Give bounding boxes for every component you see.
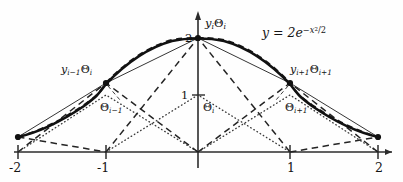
peak-term-label: yiΘi <box>205 16 226 31</box>
right-term-theta: Θ <box>310 63 319 76</box>
hat-right-label: Θi+1 <box>285 101 307 115</box>
node-dot-x--2 <box>15 134 21 140</box>
hat-mid-label: Θi <box>203 101 214 115</box>
node-dot-x-0 <box>195 35 201 41</box>
equation-label: y = 2e−x2/2 <box>262 25 326 40</box>
equation-exp-minus: − <box>303 25 310 35</box>
peak-term-theta-subscript: i <box>223 22 226 31</box>
equation-exp-denominator: /2 <box>318 25 326 35</box>
equation-exponent: −x2/2 <box>303 25 326 35</box>
y-axis-arrowhead <box>195 11 201 20</box>
hat-left-subscript: i−1 <box>109 106 122 115</box>
plot-svg <box>0 0 403 182</box>
hat-right-theta: Θ <box>285 101 294 114</box>
equation-lhs: y = 2e <box>262 25 303 40</box>
scaled-basis-x-1 <box>198 83 378 152</box>
left-term-label: yi−1Θi <box>61 63 92 77</box>
right-term-label: yi+1Θi+1 <box>290 63 332 77</box>
hat-left-theta: Θ <box>100 101 109 114</box>
node-dot-x-1 <box>287 80 293 86</box>
y-tick-label-1: 1 <box>181 88 188 102</box>
x-tick-label--1: -1 <box>97 160 109 175</box>
scaled-basis-x--2 <box>18 137 106 152</box>
hat-right-subscript: i+1 <box>294 106 307 115</box>
node-dot-x--1 <box>103 80 109 86</box>
figure-canvas: y = 2e−x2/2 yiΘi yi−1Θi yi+1Θi+1 Θi−1 Θi… <box>0 0 403 182</box>
hat-left-label: Θi−1 <box>100 101 122 115</box>
node-dot-x-2 <box>375 134 381 140</box>
x-tick-label-1: 1 <box>287 160 295 175</box>
left-term-theta-subscript: i <box>90 68 92 77</box>
hat-mid-theta: Θ <box>203 101 212 114</box>
left-term-y-subscript: i−1 <box>67 68 80 77</box>
x-tick-label-2: 2 <box>375 160 383 175</box>
y-tick-label-2: 2 <box>185 31 192 45</box>
x-axis-arrowhead <box>385 149 392 155</box>
hat-mid-subscript: i <box>212 106 214 115</box>
right-term-theta-subscript: i+1 <box>319 68 332 77</box>
x-tick-label--2: -2 <box>9 160 21 175</box>
scaled-basis-x-2 <box>290 137 378 152</box>
left-term-theta: Θ <box>81 63 90 76</box>
right-term-y-subscript: i+1 <box>296 68 309 77</box>
